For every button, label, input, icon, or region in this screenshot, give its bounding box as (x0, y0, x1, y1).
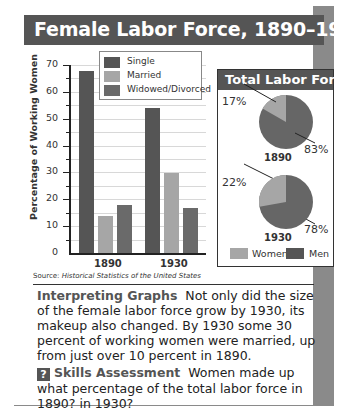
pie-1930-women-pct: 22% (222, 176, 246, 189)
interpreting-graphs-paragraph: Interpreting Graphs Not only did the siz… (37, 288, 317, 363)
bar-1930-single (145, 108, 160, 254)
y-tick-label: 30 (38, 165, 58, 176)
source-title: Historical Statistics of the United Stat… (62, 272, 201, 280)
skills-heading: Skills Assessment (54, 365, 180, 380)
legend-swatch (104, 57, 120, 68)
question-icon: ? (37, 368, 50, 381)
legend-swatch (104, 71, 120, 82)
bar-1890-single (79, 71, 94, 254)
x-axis (69, 253, 206, 255)
interpreting-heading: Interpreting Graphs (37, 288, 177, 303)
y-tick-label: 20 (38, 192, 58, 203)
title-bar: Female Labor Force, 1890–1930 (24, 15, 324, 45)
pie-1890-women-pct: 17% (222, 95, 246, 108)
legend-label: Married (127, 70, 161, 80)
x-category-label: 1930 (160, 258, 188, 269)
y-tick-label: 70 (38, 58, 58, 69)
page-title: Female Labor Force, 1890–1930 (34, 18, 350, 40)
pie-chart-panel: Total Labor Force 17% 83% 1890 22% 78% 1… (217, 69, 334, 267)
pie-1890-men-pct: 83% (304, 143, 328, 156)
legend-label: Widowed/Divorced (127, 84, 211, 94)
y-tick-label: 0 (38, 246, 58, 257)
legend-label-women: Women (252, 248, 288, 259)
source-citation: Source: Historical Statistics of the Uni… (33, 272, 201, 280)
legend-swatch (104, 85, 120, 96)
legend-label-men: Men (309, 248, 329, 259)
y-tick-label: 40 (38, 139, 58, 150)
y-tick-label: 10 (38, 219, 58, 230)
y-tick-label: 60 (38, 85, 58, 96)
legend-label: Single (127, 56, 155, 66)
bar-1930-married (164, 173, 179, 254)
bar-legend: Single Married Widowed/Divorced (99, 51, 202, 100)
pie-1890-label: 1890 (264, 152, 292, 163)
y-axis (69, 65, 71, 254)
bar-1890-married (98, 216, 113, 254)
pie-1930 (258, 174, 314, 230)
legend-swatch-women (230, 248, 248, 259)
pie-1930-label: 1930 (264, 232, 292, 243)
bar-1890-widowed (117, 205, 132, 254)
source-prefix: Source: (33, 272, 62, 280)
pie-1930-men-pct: 78% (304, 223, 328, 236)
bar-1930-widowed (183, 208, 198, 254)
legend-swatch-men (286, 248, 304, 259)
divider (33, 284, 314, 285)
skills-assessment-paragraph: ?Skills Assessment Women made up what pe… (37, 365, 327, 411)
x-category-label: 1890 (94, 258, 122, 269)
y-tick-label: 50 (38, 112, 58, 123)
